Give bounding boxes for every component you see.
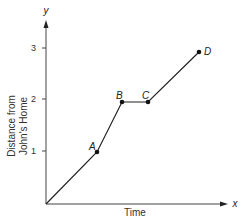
point-c-label: C	[142, 90, 150, 101]
x-axis-letter: x	[232, 198, 239, 209]
distance-line	[46, 52, 199, 204]
point-a-label: A	[88, 141, 96, 152]
y-axis-title-line2: John's Home	[18, 97, 29, 155]
distance-time-chart: 1 2 3 y x Time Distance from John's Home…	[0, 0, 243, 217]
point-d	[197, 50, 202, 55]
point-b-label: B	[116, 90, 123, 101]
y-tick-label-2: 2	[31, 94, 36, 104]
y-tick-label-3: 3	[31, 43, 36, 53]
y-axis-letter: y	[43, 5, 50, 16]
y-axis-title: Distance from John's Home	[6, 95, 29, 157]
y-axis-arrow-icon	[44, 20, 49, 28]
point-d-label: D	[204, 46, 211, 57]
x-axis-arrow-icon	[220, 202, 228, 207]
y-tick-label-1: 1	[31, 146, 36, 156]
y-axis-title-line1: Distance from	[6, 95, 17, 157]
x-axis-title: Time	[124, 207, 146, 217]
